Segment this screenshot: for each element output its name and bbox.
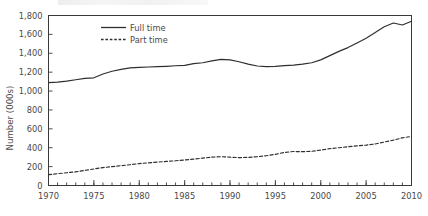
- plot-area-frame: [49, 16, 412, 186]
- x-axis-tick-labels: 197019751980198519901995200020052010: [38, 191, 422, 201]
- x-axis-tick-label: 1975: [83, 191, 104, 201]
- series-line-part-time: [49, 136, 412, 174]
- x-axis-tick-label: 1980: [129, 191, 150, 201]
- x-axis-tick-label: 1970: [38, 191, 59, 201]
- legend-label-part-time: Part time: [130, 35, 168, 45]
- y-axis-tick-labels: 02004006008001,0001,2001,4001,6001,800: [19, 11, 43, 191]
- y-axis-tick-label: 1,800: [19, 11, 43, 21]
- line-chart: Number (000s) 02004006008001,0001,2001,4…: [0, 0, 428, 216]
- x-axis-tick-label: 2005: [356, 191, 377, 201]
- y-axis-tick-label: 200: [27, 162, 43, 172]
- chart-legend: Full time Part time: [101, 23, 168, 45]
- y-axis-tick-label: 0: [37, 181, 42, 191]
- x-axis-tick-label: 1990: [219, 191, 240, 201]
- scan-artifact-strip: [58, 0, 208, 5]
- y-axis-tick-label: 1,400: [19, 48, 43, 58]
- y-axis-tick-label: 1,000: [19, 86, 43, 96]
- y-axis-title-label: Number (000s): [5, 86, 15, 151]
- chart-container: Number (000s) 02004006008001,0001,2001,4…: [0, 0, 428, 216]
- legend-label-full-time: Full time: [130, 23, 166, 33]
- y-axis-tickmarks: [49, 16, 53, 186]
- y-axis-tick-label: 600: [27, 124, 43, 134]
- y-axis-title: Number (000s): [5, 86, 15, 151]
- y-axis-tick-label: 1,200: [19, 67, 43, 77]
- x-axis-tick-label: 2000: [310, 191, 331, 201]
- y-axis-tick-label: 400: [27, 143, 43, 153]
- y-axis-tick-label: 1,600: [19, 29, 43, 39]
- x-axis-tick-label: 1995: [265, 191, 286, 201]
- y-axis-tick-label: 800: [27, 105, 43, 115]
- x-axis-tick-label: 1985: [174, 191, 195, 201]
- x-axis-tick-label: 2010: [401, 191, 422, 201]
- series-line-full-time: [49, 21, 412, 82]
